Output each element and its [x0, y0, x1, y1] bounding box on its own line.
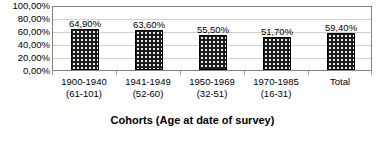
- category-label: 1941-1949 (52-60): [116, 76, 180, 100]
- bar-slot: 55,50%: [181, 7, 245, 70]
- y-tick-label: 40,00%: [0, 40, 50, 50]
- category-label-line1: Total: [330, 76, 350, 87]
- category-label-line2: (52-60): [116, 88, 180, 100]
- category-label: 1950-1969 (32-51): [180, 76, 244, 100]
- bar-value-label: 59,40%: [325, 22, 357, 33]
- bar-slot: 51,70%: [245, 7, 309, 70]
- bar-chart: 100,00% 80,00% 60,00% 40,00% 20,00% 0,00…: [0, 0, 385, 148]
- x-axis-tick: [244, 71, 245, 75]
- x-axis-tick: [371, 71, 372, 75]
- bar[interactable]: 59,40%: [327, 33, 355, 70]
- category-label: 1970-1985 (16-31): [244, 76, 308, 100]
- y-tick-label: 80,00%: [0, 14, 50, 24]
- category-label-line1: 1941-1949: [125, 76, 170, 87]
- category-label: Total: [308, 76, 372, 88]
- x-axis-tick: [52, 71, 53, 75]
- bar-value-label: 55,50%: [197, 24, 229, 35]
- y-tick-label: 20,00%: [0, 53, 50, 63]
- category-label-line1: 1900-1940: [61, 76, 106, 87]
- category-label-line2: (61-101): [52, 88, 116, 100]
- x-axis-title: Cohorts (Age at date of survey): [0, 114, 385, 126]
- plot-area: 64,90% 63,60% 55,50% 51,70% 59,4: [52, 6, 372, 71]
- x-axis-category-labels: 1900-1940 (61-101) 1941-1949 (52-60) 195…: [52, 76, 372, 106]
- category-label-line1: 1950-1969: [189, 76, 234, 87]
- bar-slot: 64,90%: [53, 7, 117, 70]
- x-axis-tick: [308, 71, 309, 75]
- x-axis-tick: [180, 71, 181, 75]
- bar[interactable]: 55,50%: [199, 35, 227, 70]
- x-axis-tick: [116, 71, 117, 75]
- bar-value-label: 51,70%: [261, 26, 293, 37]
- category-label-line1: 1970-1985: [253, 76, 298, 87]
- bar-slot: 63,60%: [117, 7, 181, 70]
- bar[interactable]: 64,90%: [71, 29, 99, 70]
- bar-value-label: 63,60%: [133, 19, 165, 30]
- bar-slot: 59,40%: [309, 7, 373, 70]
- category-label-line2: (16-31): [244, 88, 308, 100]
- y-tick-label: 60,00%: [0, 27, 50, 37]
- x-axis-ticks: [52, 71, 372, 75]
- bar[interactable]: 63,60%: [135, 30, 163, 70]
- bar[interactable]: 51,70%: [263, 37, 291, 70]
- category-label-line2: (32-51): [180, 88, 244, 100]
- y-tick-label: 0,00%: [0, 66, 50, 76]
- y-tick-label: 100,00%: [0, 1, 50, 11]
- bar-value-label: 64,90%: [69, 18, 101, 29]
- y-axis-tick-labels: 100,00% 80,00% 60,00% 40,00% 20,00% 0,00…: [0, 0, 50, 78]
- category-label: 1900-1940 (61-101): [52, 76, 116, 100]
- bars-layer: 64,90% 63,60% 55,50% 51,70% 59,4: [53, 7, 371, 70]
